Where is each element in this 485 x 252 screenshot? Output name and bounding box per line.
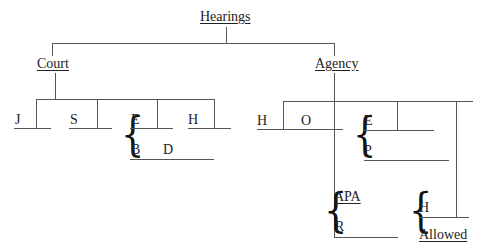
node-agency: Agency [315, 56, 359, 72]
line-agency-e [364, 130, 434, 131]
line-h [188, 128, 231, 129]
node-court: Court [37, 56, 69, 72]
node-court-s: S [70, 112, 78, 128]
connector-s [97, 99, 98, 128]
node-agency-e: E [364, 113, 373, 129]
node-court-e: E [131, 112, 140, 128]
line-bd [130, 159, 214, 160]
node-hearings: Hearings [200, 9, 251, 25]
connector-root [226, 27, 227, 43]
node-agency-apa: APA [334, 189, 361, 205]
node-court-d: D [163, 142, 173, 158]
node-agency-p: P [364, 143, 372, 159]
node-agency-o: O [301, 113, 311, 129]
node-court-h: H [188, 112, 198, 128]
line-j [14, 128, 51, 129]
node-court-b: B [131, 142, 140, 158]
line-agency-p [364, 160, 449, 161]
connector-agency-h [283, 101, 284, 129]
line-e [130, 128, 173, 129]
connector-agency-h2 [456, 101, 457, 217]
node-agency-h: H [257, 113, 267, 129]
line-agency-h2 [419, 217, 469, 218]
connector-court-down [55, 73, 56, 99]
node-court-j: J [15, 112, 20, 128]
line-agency-r [334, 237, 398, 238]
agency-children-bar [283, 101, 473, 102]
connector-root-bar [52, 43, 335, 44]
connector-j [36, 99, 37, 128]
line-s [69, 128, 112, 129]
connector-agency-e [397, 101, 398, 130]
node-agency-r: R [335, 219, 344, 235]
connector-e [157, 99, 158, 128]
connector-h [214, 99, 215, 128]
node-agency-allowed: Allowed [419, 227, 467, 243]
connector-court [52, 43, 53, 56]
court-children-bar [36, 99, 215, 100]
connector-agency [334, 43, 335, 56]
line-ho [257, 129, 343, 130]
node-agency-h2: H [419, 200, 429, 216]
